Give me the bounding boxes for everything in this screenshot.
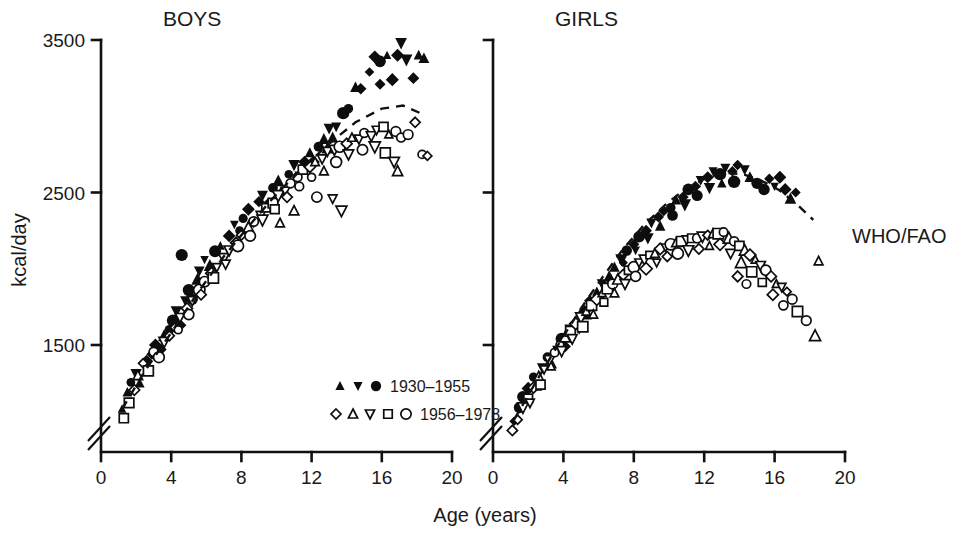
who-fao-curve <box>122 106 424 410</box>
x-tick-label-16: 16 <box>371 467 392 488</box>
data-point <box>343 150 353 160</box>
chart-canvas: 048121620150025003500BOYS048121620GIRLSW… <box>0 0 953 537</box>
data-point <box>344 104 353 113</box>
legend-item-1930-1955: 1930–1955 <box>335 378 470 395</box>
data-point <box>383 51 391 59</box>
x-tick-label-0: 0 <box>96 467 107 488</box>
panel-boys: 048121620150025003500BOYS <box>43 7 463 488</box>
data-point <box>767 289 778 300</box>
legend-marker-tri-down <box>353 382 362 391</box>
data-point <box>331 157 342 168</box>
data-point <box>787 294 797 304</box>
legend: 1930–19551956–1978 <box>331 378 500 423</box>
data-point <box>735 256 746 267</box>
data-point <box>631 271 641 281</box>
data-point <box>289 206 299 215</box>
data-point <box>380 148 390 158</box>
data-point <box>336 206 347 217</box>
data-point <box>403 130 413 140</box>
chart-figure: 048121620150025003500BOYS048121620GIRLSW… <box>0 0 953 537</box>
data-point <box>706 242 714 250</box>
data-point <box>176 249 188 261</box>
data-point <box>662 252 672 262</box>
y-tick-label-1500: 1500 <box>43 335 85 356</box>
data-point <box>154 352 165 363</box>
legend-marker-tri-up <box>335 381 344 390</box>
x-tick-label-20: 20 <box>441 467 462 488</box>
data-point <box>270 205 279 214</box>
data-point <box>683 246 694 257</box>
y-tick-label-3500: 3500 <box>43 30 85 51</box>
data-point <box>221 260 230 269</box>
legend-marker-circle <box>401 409 411 419</box>
data-point <box>357 145 367 155</box>
data-point <box>679 199 691 211</box>
data-point <box>320 166 329 174</box>
data-point <box>308 173 316 181</box>
data-point <box>507 425 517 435</box>
data-point <box>704 183 715 194</box>
legend-label: 1956–1978 <box>420 406 500 423</box>
data-point <box>692 190 703 201</box>
data-point <box>379 122 388 131</box>
data-point <box>792 306 802 316</box>
data-point <box>200 256 208 264</box>
x-tick-label-0: 0 <box>488 467 499 488</box>
data-point <box>328 195 337 204</box>
y-axis-label: kcal/day <box>8 213 30 286</box>
panel-girls: 048121620GIRLS <box>480 7 856 488</box>
data-point <box>400 55 412 67</box>
data-point <box>386 73 399 86</box>
series-open-1956-1978 <box>119 117 432 422</box>
data-point <box>369 142 380 153</box>
data-point <box>655 220 666 230</box>
data-point <box>395 38 407 49</box>
data-point <box>536 380 545 389</box>
series-filled-1930-1955 <box>509 160 800 426</box>
data-point <box>600 298 608 306</box>
data-point <box>312 192 322 202</box>
data-point <box>631 247 640 256</box>
x-tick-label-20: 20 <box>834 467 855 488</box>
x-tick-label-8: 8 <box>629 467 640 488</box>
data-point <box>622 245 632 255</box>
legend-marker-tri-down <box>365 410 374 419</box>
data-point <box>375 79 386 90</box>
legend-marker-diamond <box>331 409 341 419</box>
data-point <box>779 301 788 310</box>
x-tick-label-8: 8 <box>236 467 247 488</box>
data-point <box>747 267 757 277</box>
data-point <box>726 249 736 258</box>
legend-marker-circle <box>371 381 381 391</box>
x-tick-label-4: 4 <box>558 467 569 488</box>
data-point <box>758 184 769 195</box>
data-point <box>276 218 285 227</box>
data-point <box>779 183 792 196</box>
data-point <box>365 67 375 77</box>
data-point <box>667 210 678 221</box>
data-point <box>407 72 419 84</box>
who-fao-label: WHO/FAO <box>852 225 946 247</box>
data-point <box>272 174 284 186</box>
data-point <box>814 256 823 265</box>
data-point <box>295 182 304 191</box>
data-point <box>758 278 766 286</box>
series-open-1956-1978 <box>507 228 823 436</box>
data-point <box>284 170 293 179</box>
data-point <box>239 214 248 223</box>
data-point <box>242 203 255 216</box>
data-point <box>801 316 811 326</box>
data-point <box>410 117 420 127</box>
legend-marker-square <box>384 410 393 419</box>
data-point <box>742 280 751 289</box>
panel-title-girls: GIRLS <box>555 7 618 30</box>
y-tick-label-2500: 2500 <box>43 183 85 204</box>
data-point <box>119 414 128 423</box>
panel-title-boys: BOYS <box>163 7 221 30</box>
data-point <box>653 259 661 267</box>
data-point <box>810 330 821 341</box>
x-tick-label-12: 12 <box>694 467 715 488</box>
x-axis-label: Age (years) <box>433 504 536 526</box>
data-point <box>245 231 256 242</box>
legend-item-1956-1978: 1956–1978 <box>331 406 500 423</box>
